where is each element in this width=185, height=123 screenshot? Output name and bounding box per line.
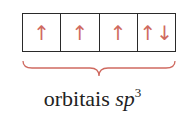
orbital-box-3: ↑	[100, 14, 138, 51]
electron-arrows: ↑	[71, 23, 88, 43]
orbital-box-1: ↑	[23, 14, 61, 51]
orbital-label: orbitais sp3	[0, 85, 185, 112]
label-hybrid: sp	[115, 86, 135, 111]
orbital-box-row: ↑ ↑ ↑ ↑↓	[22, 13, 176, 52]
label-word: orbitais	[44, 86, 110, 111]
orbital-box-2: ↑	[61, 14, 99, 51]
curly-brace-icon	[22, 60, 176, 80]
electron-arrows: ↑	[33, 23, 50, 43]
orbital-box-4: ↑↓	[138, 14, 175, 51]
electron-arrows: ↑↓	[140, 23, 174, 43]
electron-arrows: ↑	[110, 23, 127, 43]
label-superscript: 3	[135, 85, 142, 100]
